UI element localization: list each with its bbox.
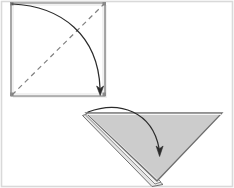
paper-folding-diagram xyxy=(0,0,234,188)
step-1-square-sheet xyxy=(10,2,107,98)
figure-root xyxy=(0,0,234,188)
square-corner-tick-bottom-right xyxy=(103,93,107,97)
